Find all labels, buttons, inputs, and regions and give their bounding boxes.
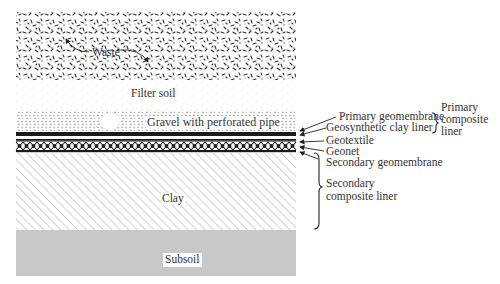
- callout-gcl: Geosynthetic clay liner: [326, 122, 433, 134]
- secondary-group-line2: composite liner: [326, 191, 397, 203]
- waste-label: Waste: [92, 47, 120, 59]
- subsoil-layer: [16, 230, 296, 276]
- filter-soil-label: Filter soil: [131, 88, 175, 100]
- secondary-brace: [314, 153, 322, 229]
- clay-layer: [16, 153, 296, 230]
- secondary-group-line1: Secondary: [326, 178, 375, 190]
- clay-label: Clay: [161, 193, 185, 205]
- primary-group-line1: Primary: [441, 102, 478, 114]
- subsoil-label: Subsoil: [163, 253, 202, 267]
- leader-geonet: [300, 147, 324, 151]
- callout-secondary-geomembrane: Secondary geomembrane: [326, 157, 443, 169]
- waste-layer: [16, 12, 296, 80]
- cross-section-drawing: [0, 0, 500, 284]
- primary-group-line3: liner: [441, 126, 462, 138]
- primary-geomembrane-line: [16, 132, 296, 136]
- secondary-geomembrane-line: [16, 150, 296, 152]
- gravel-label: Gravel with perforated pipe: [146, 116, 281, 128]
- leader-geotextile: [300, 141, 324, 142]
- geotextile-line: [16, 139, 296, 141]
- primary-group-line2: composite: [441, 114, 488, 126]
